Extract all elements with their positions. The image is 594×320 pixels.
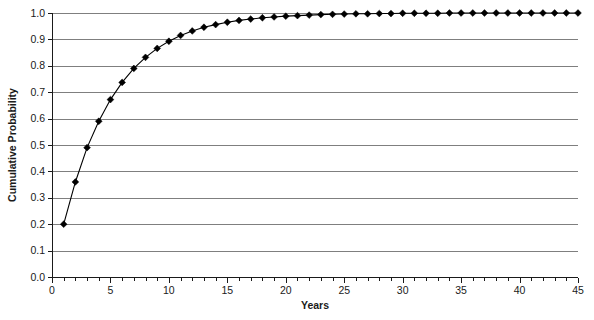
- x-tick-label: 15: [221, 284, 233, 296]
- y-tick-label: 0.1: [30, 244, 45, 256]
- data-point-marker: [423, 10, 430, 17]
- data-point-markers: [60, 10, 581, 228]
- data-point-marker: [236, 17, 243, 24]
- y-tick-label: 0.9: [30, 33, 45, 45]
- y-tick-label: 1.0: [30, 7, 45, 19]
- tick-marks-group: [48, 14, 579, 283]
- data-point-marker: [165, 38, 172, 45]
- data-point-marker: [72, 179, 79, 186]
- data-point-marker: [575, 10, 582, 17]
- y-axis-title: Cumulative Probability: [6, 88, 18, 202]
- y-tick-label: 0.4: [30, 165, 45, 177]
- x-tick-label: 35: [455, 284, 467, 296]
- data-point-marker: [212, 21, 219, 28]
- x-tick-label: 40: [514, 284, 526, 296]
- data-point-marker: [399, 10, 406, 17]
- data-point-marker: [177, 32, 184, 39]
- data-point-marker: [540, 10, 547, 17]
- data-point-marker: [364, 10, 371, 17]
- x-axis-tick-labels: 051015202530354045: [49, 284, 584, 296]
- data-point-marker: [376, 10, 383, 17]
- y-tick-label: 0.8: [30, 59, 45, 71]
- data-point-marker: [306, 12, 313, 19]
- data-point-marker: [493, 10, 500, 17]
- x-tick-label: 20: [280, 284, 292, 296]
- data-point-marker: [259, 14, 266, 21]
- x-tick-label: 5: [108, 284, 114, 296]
- data-point-marker: [504, 10, 511, 17]
- data-point-marker: [481, 10, 488, 17]
- y-tick-label: 0.3: [30, 191, 45, 203]
- y-axis-tick-labels: 0.00.10.20.30.40.50.60.70.80.91.0: [30, 7, 45, 283]
- series-polyline: [64, 13, 578, 224]
- data-point-marker: [516, 10, 523, 17]
- data-point-marker: [341, 11, 348, 18]
- data-point-marker: [388, 10, 395, 17]
- x-tick-label: 30: [397, 284, 409, 296]
- data-point-marker: [551, 10, 558, 17]
- data-point-marker: [528, 10, 535, 17]
- data-point-marker: [95, 118, 102, 125]
- x-axis-title: Years: [301, 299, 329, 311]
- data-point-marker: [271, 14, 278, 21]
- data-point-marker: [353, 10, 360, 17]
- data-point-marker: [317, 11, 324, 18]
- cumulative-probability-chart: 0.00.10.20.30.40.50.60.70.80.91.0 051015…: [0, 0, 594, 320]
- gridlines-group: [52, 14, 578, 252]
- data-point-marker: [446, 10, 453, 17]
- data-series-line: [64, 13, 578, 224]
- x-tick-label: 25: [338, 284, 350, 296]
- y-tick-label: 0.2: [30, 218, 45, 230]
- data-point-marker: [189, 28, 196, 35]
- x-tick-label: 45: [572, 284, 584, 296]
- data-point-marker: [107, 96, 114, 103]
- y-tick-label: 0.5: [30, 139, 45, 151]
- data-point-marker: [458, 10, 465, 17]
- y-tick-label: 0.0: [30, 271, 45, 283]
- data-point-marker: [469, 10, 476, 17]
- data-point-marker: [224, 19, 231, 26]
- x-tick-label: 0: [49, 284, 55, 296]
- data-point-marker: [434, 10, 441, 17]
- data-point-marker: [329, 11, 336, 18]
- chart-figure: 0.00.10.20.30.40.50.60.70.80.91.0 051015…: [0, 0, 594, 320]
- data-point-marker: [563, 10, 570, 17]
- y-tick-label: 0.6: [30, 112, 45, 124]
- data-point-marker: [411, 10, 418, 17]
- data-point-marker: [60, 221, 67, 228]
- data-point-marker: [247, 16, 254, 23]
- data-point-marker: [201, 24, 208, 31]
- y-tick-label: 0.7: [30, 86, 45, 98]
- x-tick-label: 10: [163, 284, 175, 296]
